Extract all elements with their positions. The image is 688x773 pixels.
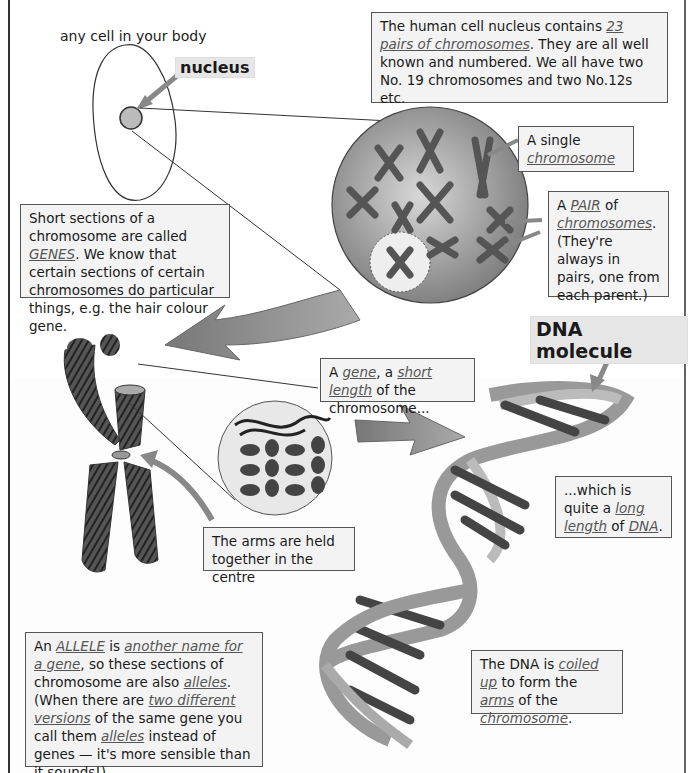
dna-molecule-label: DNA molecule [530, 316, 688, 364]
nucleus-label: nucleus [175, 57, 255, 78]
dna-coiled-box: The DNA is coiled up to form the arms of… [471, 650, 623, 714]
long-length-dna-box: ...which is quite a long length of DNA. [555, 476, 672, 538]
nucleus-dot [120, 107, 142, 129]
chromosome-icon [64, 334, 158, 572]
pair-chromosomes-box: A PAIR of chromosomes. (They're always i… [548, 191, 669, 297]
gene-short-length-box: A gene, a short length of the chromosome… [320, 358, 475, 402]
single-chromosome-box: A singlechromosome [518, 126, 634, 172]
dna-chromosome-diagram: any cell in your body nucleus DNA molecu… [0, 0, 688, 773]
cell-label: any cell in your body [60, 28, 207, 44]
nucleus-info-box: The human cell nucleus contains 23 pairs… [371, 12, 668, 103]
allele-info-box: An ALLELE is another name for a gene, so… [25, 632, 263, 767]
nucleus-magnified-icon [332, 107, 528, 303]
arms-held-box: The arms are held together in the centre [203, 527, 355, 571]
genes-info-box: Short sections of a chromosome are calle… [20, 204, 230, 298]
gene-magnified-icon [218, 401, 332, 515]
